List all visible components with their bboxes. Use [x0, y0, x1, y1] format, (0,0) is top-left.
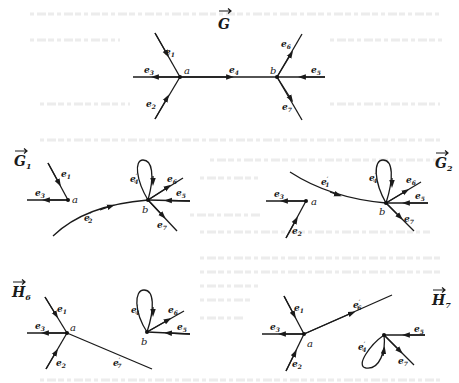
- edge-label-e3: e3: [270, 322, 280, 333]
- svg-text:G1: G1: [14, 153, 32, 171]
- edge-label-e1: e1: [294, 303, 304, 314]
- panel-G: G a b e1 e2 e3 e4 e5 e6 e7: [133, 9, 325, 121]
- vertex-a: [65, 331, 69, 335]
- edge-label-e4-prime: e′4: [369, 171, 378, 184]
- vertex-label-a: a: [311, 196, 317, 207]
- vertex-label-b: b: [270, 65, 276, 76]
- vertex-b: [145, 330, 149, 334]
- edge-label-e2: e2: [292, 359, 302, 370]
- edge-label-e3: e3: [35, 321, 45, 332]
- panel-H7: H7 a e1 e3 e2 e′6 e5 e7 e′4: [262, 288, 451, 372]
- edge-label-e3: e3: [274, 189, 284, 200]
- panel-H6: H6 a b e1 e3 e2 e′7 e′4 e6 e5: [11, 280, 190, 370]
- edge-e7-prime: [67, 333, 152, 369]
- edge-label-e2-prime: e′2: [84, 211, 93, 224]
- svg-text:G: G: [218, 16, 230, 32]
- vertex-a: [302, 332, 306, 336]
- vertex-b: [146, 198, 150, 202]
- edge-label-e6: e6: [167, 174, 178, 185]
- edge-label-e7: e7: [157, 220, 168, 231]
- edge-label-e6: e6: [406, 175, 417, 186]
- edge-label-e6: e6: [281, 39, 292, 50]
- edge-label-e3: e3: [35, 188, 45, 199]
- panel-G-title: G: [218, 9, 231, 33]
- edge-label-e2: e2: [292, 226, 302, 237]
- edge-label-e1: e1: [61, 169, 71, 180]
- panel-H7-title: H7: [431, 288, 451, 311]
- vertex-label-b: b: [142, 204, 148, 215]
- panel-G2-title: G2: [435, 151, 453, 174]
- edge-e4-prime-loop: [137, 160, 151, 200]
- edge-label-e4-prime: e′4: [131, 303, 140, 316]
- edge-label-e4-prime: e′4: [358, 340, 367, 353]
- edge-label-e3: e3: [144, 65, 154, 76]
- svg-text:G2: G2: [435, 155, 453, 173]
- panel-G1: G1 a b e1 e3 e′2 e′4 e6 e5 e7: [14, 149, 190, 237]
- edge-label-e1-prime: e′1: [321, 175, 330, 188]
- edge-label-e7: e7: [404, 214, 415, 225]
- edge-label-e5: e5: [177, 322, 187, 333]
- edge-label-e7: e7: [282, 102, 293, 113]
- edge-label-e4: e4: [229, 65, 239, 76]
- vertex-label-b: b: [379, 206, 385, 217]
- vertex-b: [382, 333, 386, 337]
- edge-e4-prime-loop: [376, 160, 391, 203]
- panel-G1-title: G1: [14, 149, 32, 172]
- edge-label-e4-prime: e′4: [130, 172, 139, 185]
- svg-text:H6: H6: [11, 284, 31, 302]
- vertex-a: [178, 75, 182, 79]
- graph-figure: G a b e1 e2 e3 e4 e5 e6 e7 G1: [0, 0, 459, 383]
- panel-G2: G2 a b e′1 e3 e2 e′4 e6 e5 e7: [266, 151, 453, 239]
- edge-label-e7-prime: e′7: [113, 356, 122, 369]
- vertex-a: [66, 198, 70, 202]
- edge-e2-prime: [53, 200, 148, 236]
- vertex-label-b: b: [141, 336, 147, 347]
- panel-H6-title: H6: [11, 280, 31, 303]
- edge-label-e2: e2: [146, 99, 156, 110]
- edge-label-e6-prime: e′6: [353, 298, 362, 311]
- edge-label-e5: e5: [415, 191, 425, 202]
- edge-label-e1: e1: [57, 304, 67, 315]
- edge-label-e2: e2: [56, 358, 66, 369]
- svg-text:H7: H7: [431, 292, 451, 310]
- vertex-label-a: a: [184, 65, 190, 76]
- vertex-label-a: a: [70, 322, 76, 333]
- edge-label-e6: e6: [168, 305, 179, 316]
- vertex-label-a: a: [307, 338, 313, 349]
- vertex-b: [384, 201, 388, 205]
- edge-label-e5: e5: [311, 65, 321, 76]
- edge-label-e5: e5: [414, 324, 424, 335]
- vertex-label-a: a: [72, 194, 78, 205]
- edge-label-e1: e1: [165, 47, 175, 58]
- edge-label-e5: e5: [176, 188, 186, 199]
- vertex-a: [304, 199, 308, 203]
